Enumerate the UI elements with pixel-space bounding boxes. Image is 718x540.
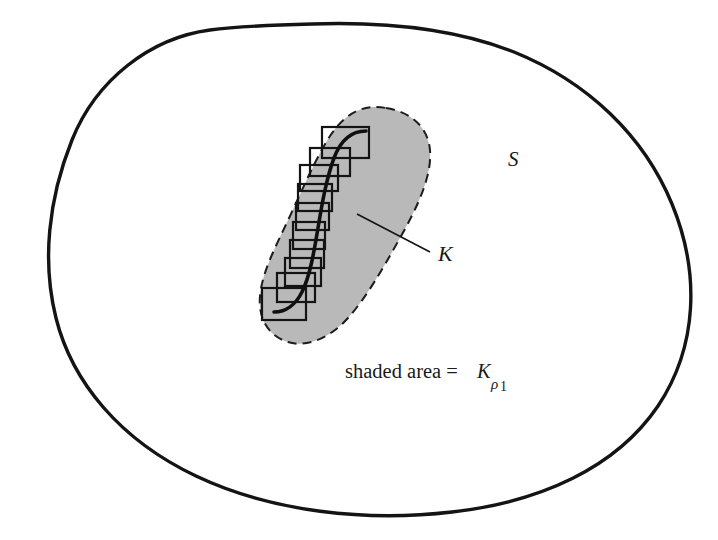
- caption-K-base: K: [476, 360, 492, 382]
- diagram-svg: S K shaded area = K ρ 1: [0, 0, 718, 540]
- label-set-S: S: [508, 147, 519, 171]
- caption-rho-subscript: ρ: [490, 376, 498, 392]
- caption-shaded-area: shaded area =: [345, 360, 458, 382]
- figure-canvas: S K shaded area = K ρ 1: [0, 0, 718, 540]
- label-curve-K: K: [437, 241, 454, 266]
- caption-rho-index: 1: [500, 379, 507, 394]
